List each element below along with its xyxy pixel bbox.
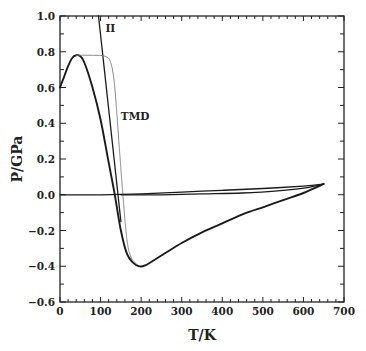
- y-tick-label: −0.6: [28, 296, 55, 308]
- x-tick-label: 700: [333, 305, 355, 317]
- annotation-tmd: TMD: [121, 110, 150, 122]
- x-tick-label: 400: [211, 305, 233, 317]
- y-tick-label: −0.4: [28, 260, 55, 272]
- y-tick-label: 0.6: [37, 82, 55, 94]
- x-tick-label: 0: [56, 305, 63, 317]
- series-upper-near-zero: [60, 184, 324, 195]
- x-tick-label: 100: [90, 305, 112, 317]
- x-tick-label: 300: [171, 305, 193, 317]
- annotations: IITMD: [105, 22, 149, 122]
- y-tick-label: 0.8: [37, 46, 55, 58]
- y-axis-label: P/GPa: [9, 136, 25, 183]
- data-series: [60, 16, 324, 267]
- y-tick-labels: −0.6−0.4−0.20.00.20.40.60.81.0: [28, 10, 55, 308]
- y-tick-label: 0.2: [37, 153, 55, 165]
- x-tick-label: 600: [292, 305, 314, 317]
- x-axis-label: T/K: [188, 327, 217, 343]
- y-tick-label: 0.4: [37, 117, 55, 129]
- y-tick-label: −0.2: [28, 225, 55, 237]
- x-tick-label: 500: [252, 305, 274, 317]
- annotation-ii: II: [105, 22, 115, 34]
- y-tick-label: 0.0: [37, 189, 55, 201]
- series-liquid-spinodal: [60, 55, 324, 267]
- y-tick-label: 1.0: [37, 10, 55, 22]
- x-tick-labels: 0100200300400500600700: [56, 305, 355, 317]
- chart: 0100200300400500600700 −0.6−0.4−0.20.00.…: [0, 0, 366, 351]
- x-tick-label: 200: [130, 305, 152, 317]
